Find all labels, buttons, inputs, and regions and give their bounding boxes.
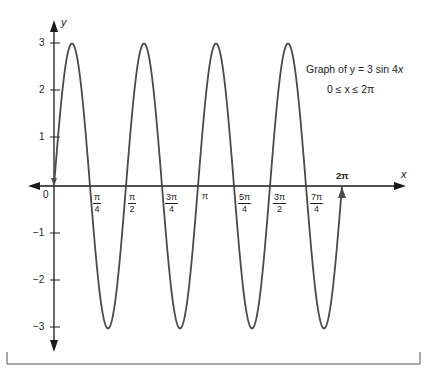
x-tick-7pi-over-4: 7π 4	[310, 193, 323, 214]
y-tick-neg2: −2	[33, 275, 44, 285]
y-tick-1: 1	[39, 132, 45, 142]
y-axis-arrow-down-icon	[50, 340, 58, 352]
x-tick-2pi: 2π	[336, 171, 349, 181]
chart-annotation-title: Graph of y = 3 sin 4x	[306, 63, 403, 75]
x-tick-5pi-over-4: 5π 4	[238, 193, 251, 214]
y-tick-3: 3	[39, 38, 45, 48]
curve-end-arrow-icon	[338, 187, 346, 198]
y-ticks	[50, 43, 60, 327]
x-tick-3pi-over-4: 3π 4	[165, 193, 178, 214]
x-axis-label: x	[401, 169, 407, 180]
chart-annotation-domain: 0 ≤ x ≤ 2π	[327, 83, 374, 95]
x-tick-pi-over-4: π 4	[93, 193, 101, 214]
bottom-bracket	[7, 352, 420, 364]
x-tick-3pi-over-2: 3π 2	[273, 193, 286, 214]
sine-chart	[0, 0, 429, 380]
y-tick-2: 2	[39, 85, 45, 95]
y-tick-neg3: −3	[33, 322, 44, 332]
y-axis-arrow-up-icon	[50, 20, 58, 32]
origin-label: 0	[43, 190, 49, 200]
x-axis-arrow-left-icon	[28, 182, 40, 190]
y-tick-neg1: −1	[33, 228, 44, 238]
y-axis-label: y	[61, 17, 67, 28]
x-axis-arrow-right-icon	[394, 182, 406, 190]
x-tick-pi-over-2: π 2	[128, 193, 136, 214]
curve-start-arrow-icon	[51, 178, 57, 186]
x-tick-pi: π	[202, 192, 208, 201]
